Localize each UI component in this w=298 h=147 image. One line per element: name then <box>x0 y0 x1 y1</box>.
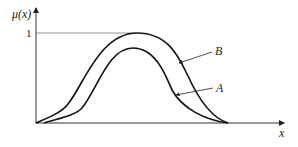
curve-label-a: A <box>215 81 224 95</box>
curve-label-b: B <box>215 44 223 58</box>
curve-b <box>36 33 228 123</box>
x-axis-label: x <box>278 126 285 140</box>
y-axis-label: μ(x) <box>11 7 31 21</box>
y-tick-label-1: 1 <box>26 27 32 39</box>
curve-a <box>44 48 228 123</box>
membership-diagram: μ(x) 1 x B A <box>0 0 298 147</box>
leader-line-b <box>179 52 212 63</box>
